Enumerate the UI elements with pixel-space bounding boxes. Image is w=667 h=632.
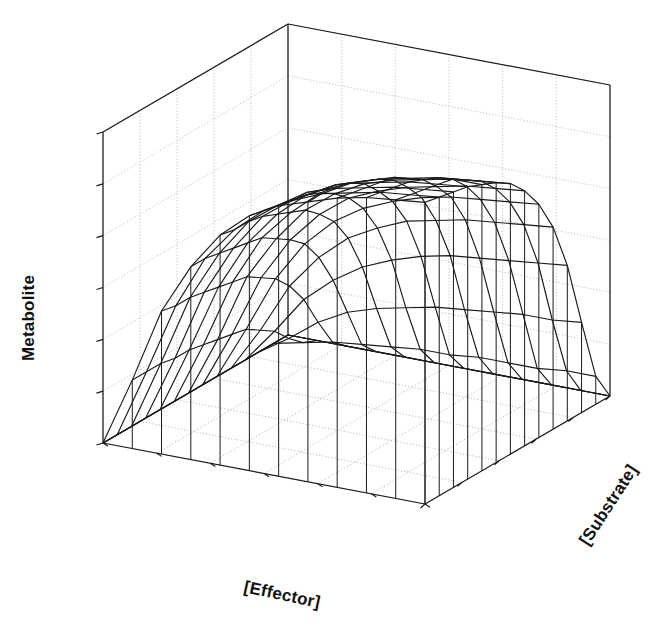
axis-label-effector: [Effector]	[242, 577, 322, 612]
plot-canvas: Metabolite [Effector] [Substrate]	[0, 0, 667, 632]
axis-label-substrate: [Substrate]	[575, 461, 641, 548]
axis-box-edges	[103, 24, 610, 504]
surface-base-skirt	[103, 183, 610, 504]
floor-gridlines	[103, 335, 610, 504]
back-wall-gridlines	[103, 24, 610, 443]
axis-label-metabolite: Metabolite	[19, 275, 38, 361]
surface-plot-figure: Metabolite [Effector] [Substrate]	[0, 0, 667, 632]
surface-wireframe-mesh	[103, 177, 610, 443]
